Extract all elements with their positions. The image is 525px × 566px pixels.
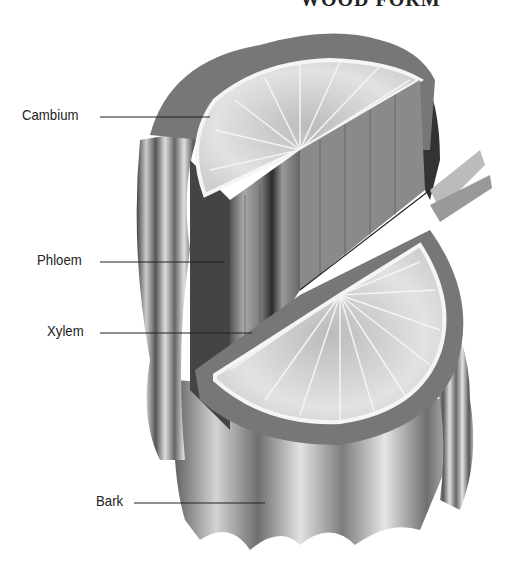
- label-cambium: Cambium: [22, 106, 78, 124]
- label-xylem: Xylem: [47, 322, 84, 340]
- label-bark: Bark: [96, 492, 123, 510]
- tree-trunk-illustration: [0, 0, 525, 566]
- label-phloem: Phloem: [37, 251, 82, 269]
